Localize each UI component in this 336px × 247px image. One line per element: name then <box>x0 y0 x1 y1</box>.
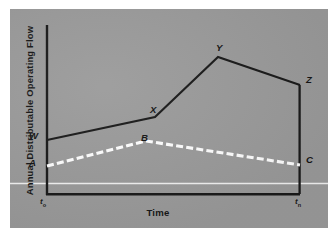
data-point-label-w: W <box>29 130 38 141</box>
data-point-label-y: Y <box>216 42 222 53</box>
y-axis-label: Annual Distributable Operating Flow <box>24 16 35 206</box>
data-point-label-a: A <box>29 157 36 168</box>
chart-panel: Annual Distributable Operating Flow Time… <box>10 9 328 228</box>
series-distributable-operating-flow <box>47 57 300 140</box>
chart-plot-area <box>10 9 328 228</box>
x-tick-start-subscript: o <box>43 202 46 208</box>
x-axis-label: Time <box>118 207 198 218</box>
x-tick-label-end: tn <box>295 197 301 208</box>
series-debt-service-requirement <box>47 141 300 166</box>
data-point-label-x: X <box>150 104 156 115</box>
data-point-label-c: C <box>306 154 313 165</box>
figure-container: Annual Distributable Operating Flow Time… <box>0 0 336 247</box>
x-tick-end-subscript: n <box>298 202 301 208</box>
data-point-label-z: Z <box>306 74 312 85</box>
data-point-label-b: B <box>141 132 148 143</box>
x-tick-label-start: to <box>40 197 46 208</box>
